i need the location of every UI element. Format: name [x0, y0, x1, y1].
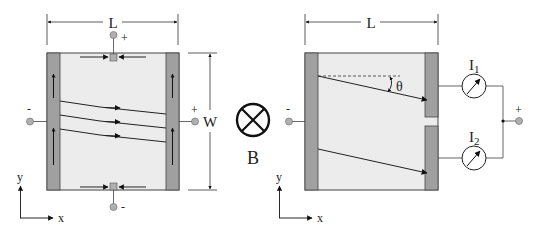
left-electrode — [47, 53, 60, 190]
right-terminal: + — [515, 103, 523, 125]
right-terminal-sign: + — [191, 103, 198, 117]
right-device: L θ - + — [276, 14, 523, 225]
right-terminal: + — [179, 103, 199, 125]
top-terminal-sign: + — [121, 31, 128, 45]
width-label: W — [203, 114, 218, 130]
axis-y-label: y — [17, 170, 23, 184]
ammeter-2: I2 — [462, 129, 486, 170]
ammeter-1: I1 — [462, 57, 486, 98]
length-label: L — [108, 15, 117, 31]
right-electrode — [166, 53, 179, 190]
right-terminal-sign: + — [515, 103, 522, 117]
meter1-label: I1 — [469, 57, 480, 75]
hall-effect-diagram: L + — [0, 0, 538, 234]
angle-label: θ — [396, 79, 403, 94]
magnetic-field-into-page: B — [237, 104, 269, 168]
meter2-label: I2 — [469, 129, 480, 147]
bottom-terminal — [110, 204, 117, 211]
substrate — [305, 53, 438, 190]
axis-x-label: x — [58, 211, 64, 225]
left-terminal-sign: - — [27, 102, 31, 116]
right-lower-electrode — [425, 126, 438, 190]
right-upper-electrode — [425, 53, 438, 117]
top-terminal — [110, 32, 117, 39]
field-label: B — [247, 148, 259, 168]
length-label: L — [366, 15, 375, 31]
left-terminal: - — [286, 102, 306, 125]
left-device: L + — [17, 14, 218, 225]
bottom-terminal-sign: - — [121, 200, 125, 214]
left-electrode — [305, 53, 318, 190]
length-dimension-left: L — [47, 14, 178, 45]
axis-y-label: y — [276, 170, 282, 184]
junction-node — [501, 119, 504, 122]
left-terminal-sign: - — [286, 102, 290, 116]
axis-x-label: x — [317, 211, 323, 225]
length-dimension-right: L — [305, 14, 438, 45]
left-terminal: - — [27, 102, 48, 125]
